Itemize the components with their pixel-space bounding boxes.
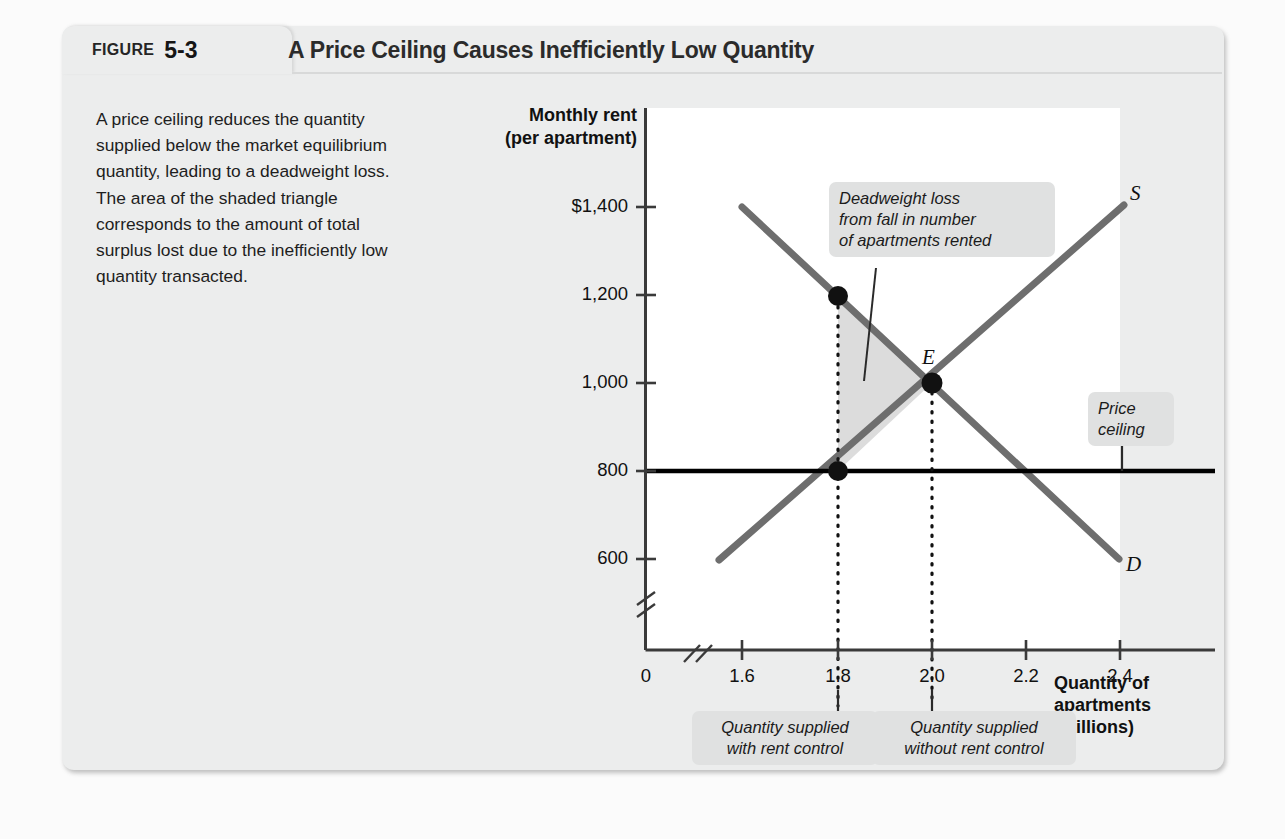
deadweight-loss-callout: Deadweight loss from fall in number of a… (829, 182, 1055, 257)
point-demand-1-8 (828, 286, 848, 306)
x-axis-title-line2: apartments (1054, 694, 1204, 716)
quantity-without-rent-control-callout: Quantity supplied without rent control (872, 711, 1076, 765)
quantity-with-rent-control-callout: Quantity supplied with rent control (692, 711, 878, 765)
qs-with-line1: Quantity supplied (702, 717, 868, 738)
x-axis-title-line3: (millions) (1054, 716, 1204, 738)
x-tick-label-1-8: 1.8 (803, 665, 873, 687)
y-tick-label-1000: 1,000 (508, 371, 628, 393)
qs-without-line2: without rent control (882, 738, 1066, 759)
supply-curve-label: S (1130, 181, 1141, 206)
price-ceiling-callout: Price ceiling (1088, 392, 1174, 446)
y-axis-title-line2: (per apartment) (455, 127, 637, 150)
point-supply-ceiling (828, 461, 848, 481)
x-tick-label-0: 0 (611, 665, 681, 687)
y-axis-title: Monthly rent (per apartment) (455, 104, 637, 150)
deadweight-loss-line1: Deadweight loss (839, 188, 1045, 209)
x-tick-label-2-2: 2.2 (991, 665, 1061, 687)
price-ceiling-line1: Price (1098, 398, 1164, 419)
deadweight-loss-line3: of apartments rented (839, 230, 1045, 251)
x-tick-label-1-6: 1.6 (707, 665, 777, 687)
y-axis-title-line1: Monthly rent (455, 104, 637, 127)
x-tick-label-2-4: 2.4 (1085, 665, 1155, 687)
y-tick-label-1200: 1,200 (508, 283, 628, 305)
equilibrium-label: E (922, 345, 935, 370)
deadweight-loss-line2: from fall in number (839, 209, 1045, 230)
y-tick-label-800: 800 (508, 459, 628, 481)
point-equilibrium-E (922, 373, 943, 394)
demand-curve-label: D (1126, 552, 1141, 577)
y-tick-label-1400: $1,400 (508, 195, 628, 217)
qs-without-line1: Quantity supplied (882, 717, 1066, 738)
price-ceiling-line2: ceiling (1098, 419, 1164, 440)
x-tick-label-2-0: 2.0 (897, 665, 967, 687)
y-tick-label-600: 600 (508, 547, 628, 569)
qs-with-line2: with rent control (702, 738, 868, 759)
